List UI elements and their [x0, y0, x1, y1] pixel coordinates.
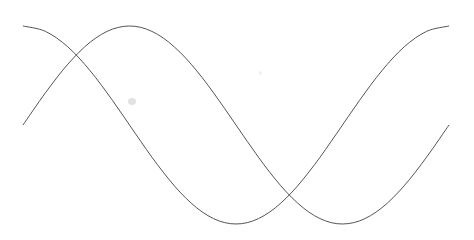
faint-dot-artifact: [259, 71, 262, 75]
line-chart: [0, 0, 474, 240]
faint-dot-artifact: [128, 98, 136, 105]
series-layer: [23, 26, 449, 224]
series-line-sin: [23, 26, 449, 224]
